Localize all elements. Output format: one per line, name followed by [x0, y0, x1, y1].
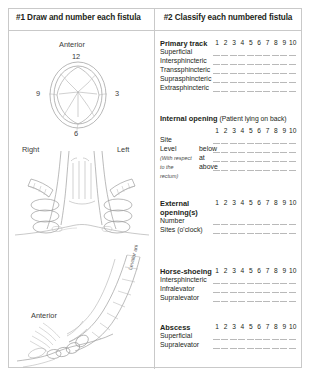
col-num: 4	[238, 323, 246, 330]
col-num: 3	[230, 199, 238, 206]
coronal-figure[interactable]: Right Left	[9, 143, 154, 253]
col-num: 5	[247, 267, 255, 274]
col-num: 1	[213, 267, 221, 274]
col-num: 2	[221, 39, 229, 46]
col-num: 5	[247, 39, 255, 46]
col-num: 5	[247, 323, 255, 330]
answer-line[interactable]	[213, 170, 297, 171]
clock-mark-3: 3	[115, 89, 119, 98]
block-title-text: Internal opening	[160, 114, 217, 123]
col-num: 4	[238, 199, 246, 206]
col-num: 7	[263, 199, 271, 206]
row-label: Superficial	[160, 48, 192, 55]
row-mid-label: above	[199, 163, 218, 170]
answer-line[interactable]	[213, 55, 297, 56]
answer-line[interactable]	[213, 143, 297, 144]
col-num: 10	[289, 199, 297, 206]
row-label: Supralevator	[160, 341, 199, 348]
answer-line[interactable]	[213, 339, 297, 340]
block-primary-track[interactable]: Primary track 1 2 3 4 5 6 7 8 9 10 Super…	[155, 39, 301, 101]
col-num: 3	[230, 267, 238, 274]
block-external-opening[interactable]: External opening(s) 1 2 3 4 5 6 7 8 9 10…	[155, 199, 301, 243]
col-num: 6	[255, 267, 263, 274]
drawing-panel[interactable]: Anterior 12 9 3 6	[9, 31, 154, 369]
row-mid-label: at	[199, 154, 205, 161]
row-label-note: (With respect	[160, 155, 192, 161]
row-label: Level	[160, 145, 176, 152]
col-num: 4	[238, 127, 246, 134]
row-label-note: to the	[160, 164, 174, 170]
block-title-line2: opening(s)	[160, 208, 198, 217]
right-panel-header: #2 Classify each numbered fistula	[155, 13, 301, 22]
col-num: 9	[280, 323, 288, 330]
col-num: 3	[230, 39, 238, 46]
col-num: 4	[238, 267, 246, 274]
answer-line[interactable]	[213, 64, 297, 65]
col-num: 9	[280, 267, 288, 274]
col-num: 8	[272, 199, 280, 206]
anal-canal-clock-figure[interactable]: Anterior 12 9 3 6	[9, 37, 154, 142]
answer-line[interactable]	[213, 91, 297, 92]
answer-line[interactable]	[213, 161, 297, 162]
col-num: 5	[247, 199, 255, 206]
col-num: 7	[263, 127, 271, 134]
column-numbers: 1 2 3 4 5 6 7 8 9 10	[213, 127, 297, 134]
block-internal-opening[interactable]: Internal opening (Patient lying on back)…	[155, 114, 301, 186]
col-num: 10	[289, 39, 297, 46]
col-num: 2	[221, 267, 229, 274]
row-label-note: rectum)	[160, 173, 178, 179]
col-num: 1	[213, 127, 221, 134]
answer-line[interactable]	[213, 152, 297, 153]
col-num: 8	[272, 267, 280, 274]
answer-line[interactable]	[213, 233, 297, 234]
sagittal-figure[interactable]: Anterior Levator ani	[9, 249, 154, 369]
anterior-label-top: Anterior	[59, 40, 85, 49]
col-num: 5	[247, 127, 255, 134]
row-label: Sites (o'clock)	[160, 226, 203, 233]
row-label: Intersphincteric	[160, 57, 207, 64]
answer-line[interactable]	[213, 292, 297, 293]
col-num: 3	[230, 127, 238, 134]
block-title: Primary track	[160, 39, 207, 48]
col-num: 10	[289, 323, 297, 330]
anterior-label-bottom: Anterior	[31, 311, 57, 320]
row-label: Supralevator	[160, 294, 199, 301]
clock-mark-12: 12	[72, 52, 80, 61]
col-num: 1	[213, 199, 221, 206]
col-num: 3	[230, 323, 238, 330]
column-numbers: 1 2 3 4 5 6 7 8 9 10	[213, 39, 297, 46]
answer-line[interactable]	[213, 82, 297, 83]
block-title: External	[160, 199, 189, 208]
answer-line[interactable]	[213, 224, 297, 225]
col-num: 8	[272, 39, 280, 46]
block-subtitle-text: (Patient lying on back)	[219, 115, 286, 122]
col-num: 10	[289, 267, 297, 274]
col-num: 9	[280, 39, 288, 46]
col-num: 9	[280, 199, 288, 206]
column-numbers: 1 2 3 4 5 6 7 8 9 10	[213, 199, 297, 206]
column-numbers: 1 2 3 4 5 6 7 8 9 10	[213, 267, 297, 274]
row-label: Transsphincteric	[160, 66, 210, 73]
col-num: 7	[263, 39, 271, 46]
row-label: Infralevator	[160, 285, 194, 292]
form-sheet: #1 Draw and number each fistula #2 Class…	[8, 8, 302, 368]
row-label: Extrasphincteric	[160, 84, 209, 91]
block-title: Internal opening (Patient lying on back)	[160, 114, 287, 123]
answer-line[interactable]	[213, 348, 297, 349]
col-num: 7	[263, 323, 271, 330]
block-horse-shoeing[interactable]: Horse-shoeing 1 2 3 4 5 6 7 8 9 10 Inter…	[155, 267, 301, 311]
col-num: 9	[280, 127, 288, 134]
answer-line[interactable]	[213, 301, 297, 302]
answer-line[interactable]	[213, 73, 297, 74]
left-label: Left	[117, 145, 129, 154]
classification-panel[interactable]: Primary track 1 2 3 4 5 6 7 8 9 10 Super…	[155, 31, 301, 369]
row-label: Number	[160, 217, 185, 224]
col-num: 8	[272, 323, 280, 330]
col-num: 10	[289, 127, 297, 134]
block-title: Horse-shoeing	[160, 267, 212, 276]
col-num: 6	[255, 127, 263, 134]
col-num: 6	[255, 199, 263, 206]
block-abscess[interactable]: Abscess 1 2 3 4 5 6 7 8 9 10 Superficial	[155, 323, 301, 359]
coronal-svg	[9, 143, 154, 253]
answer-line[interactable]	[213, 283, 297, 284]
